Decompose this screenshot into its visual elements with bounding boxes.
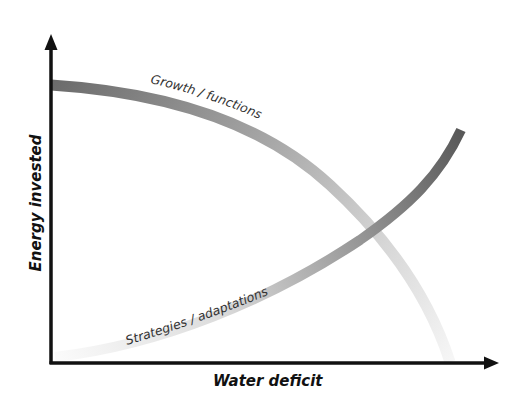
strategy-curve-label: Strategies / adaptations xyxy=(124,283,271,348)
y-axis-title: Energy invested xyxy=(27,134,45,271)
y-axis-arrow-icon xyxy=(45,34,58,50)
x-axis-title: Water deficit xyxy=(213,372,323,390)
x-axis-arrow-icon xyxy=(484,357,499,370)
trade-off-diagram: Growth / functions Strategies / adaptati… xyxy=(0,0,520,417)
strategy-curve xyxy=(55,130,461,357)
